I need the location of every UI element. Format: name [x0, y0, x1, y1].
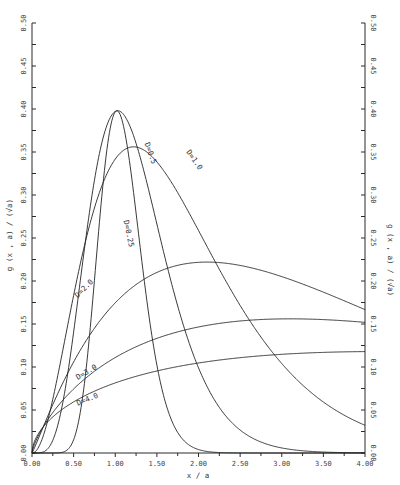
- y-tick-label-right: 0.20: [369, 273, 377, 290]
- y-tick-label-right: 0.35: [369, 144, 377, 161]
- y-tick-label-left: 0.05: [20, 402, 28, 419]
- x-tick-label: 2.50: [232, 460, 249, 468]
- x-tick-label: 3.50: [315, 460, 332, 468]
- x-axis-title: x / a: [187, 471, 210, 480]
- y-tick-label-right: 0.40: [369, 101, 377, 118]
- y-tick-label-left: 0.15: [20, 316, 28, 333]
- y-tick-label-left: 0.25: [20, 230, 28, 247]
- y-tick-label-right: 0.05: [369, 402, 377, 419]
- curve-labels: D=0.25D=0.5D=1.0D=2.0D=3.0D=4.0: [73, 141, 205, 408]
- curve-label: D=2.0: [73, 277, 96, 300]
- y-tick-label-right: 0.15: [369, 316, 377, 333]
- y-tick-label-left: 0.30: [20, 187, 28, 204]
- x-tick-label: 0.50: [65, 460, 82, 468]
- y-tick-label-right: 0.30: [369, 187, 377, 204]
- y-tick-label-left: 0.35: [20, 144, 28, 161]
- x-tick-label: 1.50: [148, 460, 165, 468]
- curve-label: D=0.25: [122, 219, 136, 247]
- y-tick-label-left: 0.00: [20, 445, 28, 462]
- axes: 0.000.501.001.502.002.503.003.504.000.00…: [20, 15, 377, 468]
- y-tick-label-left: 0.20: [20, 273, 28, 290]
- x-tick-label: 3.00: [273, 460, 290, 468]
- x-tick-label: 2.00: [190, 460, 207, 468]
- y-axis-title-right: g (x , a) / (√a): [386, 224, 395, 296]
- curve-d-3-0: [32, 319, 365, 453]
- curve-label: D=4.0: [75, 391, 100, 408]
- curve-label: D=0.5: [143, 141, 159, 165]
- y-tick-label-left: 0.45: [20, 58, 28, 75]
- y-tick-label-right: 0.25: [369, 230, 377, 247]
- y-tick-label-left: 0.40: [20, 101, 28, 118]
- curve-d-1-0: [32, 147, 365, 453]
- y-tick-label-right: 0.00: [369, 445, 377, 462]
- curve-label: D=1.0: [184, 148, 205, 172]
- x-tick-label: 1.00: [107, 460, 124, 468]
- y-tick-label-right: 0.10: [369, 359, 377, 376]
- y-tick-label-right: 0.45: [369, 58, 377, 75]
- distribution-chart: 0.000.501.001.502.002.503.003.504.000.00…: [0, 0, 400, 485]
- y-tick-label-left: 0.50: [20, 15, 28, 32]
- y-tick-label-right: 0.50: [369, 15, 377, 32]
- y-axis-title-left: g (x , a) / (√a): [5, 199, 14, 271]
- y-tick-label-left: 0.10: [20, 359, 28, 376]
